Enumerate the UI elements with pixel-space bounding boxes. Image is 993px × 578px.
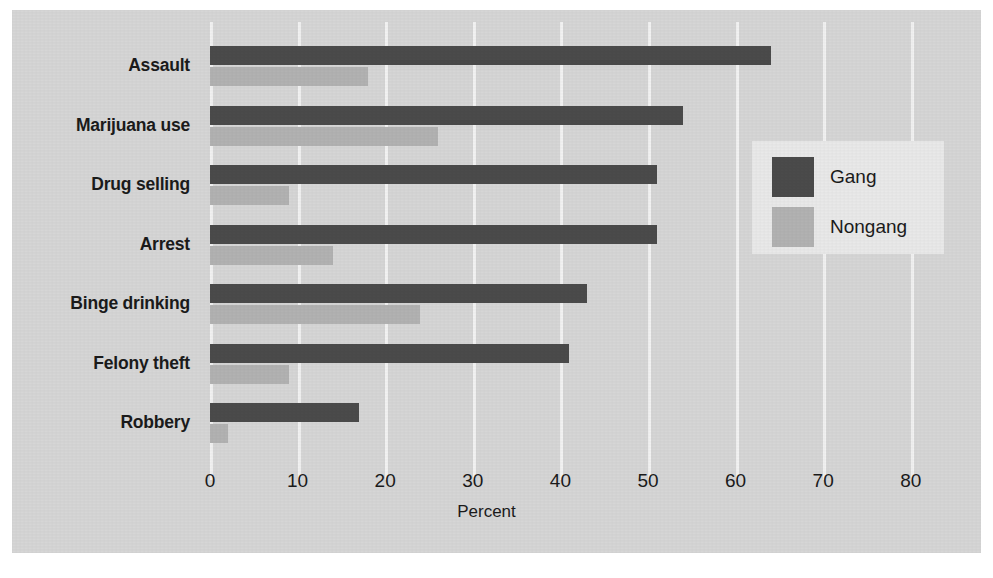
bar-nongang (210, 365, 289, 384)
legend-swatch-nongang (772, 207, 814, 247)
bar-group: Binge drinking (12, 282, 981, 328)
x-tick-label: 10 (268, 470, 328, 492)
bar-nongang (210, 127, 438, 146)
bar-nongang (210, 424, 228, 443)
x-tick-label: 20 (355, 470, 415, 492)
legend-label: Gang (830, 157, 876, 197)
bar-gang (210, 46, 771, 65)
category-label: Binge drinking (12, 280, 190, 326)
bar-gang (210, 403, 359, 422)
category-label: Drug selling (12, 161, 190, 207)
x-axis-title: Percent (12, 502, 981, 522)
category-label: Robbery (12, 399, 190, 445)
legend-label: Nongang (830, 207, 907, 247)
x-tick-label: 60 (706, 470, 766, 492)
chart-legend: GangNongang (752, 141, 944, 254)
legend-swatch-gang (772, 157, 814, 197)
chart-panel: AssaultMarijuana useDrug sellingArrestBi… (12, 10, 981, 553)
bar-gang (210, 284, 587, 303)
bar-group: Felony theft (12, 342, 981, 388)
bar-gang (210, 344, 569, 363)
x-axis-tick-labels: 01020304050607080 (12, 470, 981, 498)
bar-nongang (210, 186, 289, 205)
bar-group: Robbery (12, 401, 981, 447)
bar-gang (210, 106, 683, 125)
bar-nongang (210, 246, 333, 265)
bar-group: Assault (12, 44, 981, 90)
category-label: Marijuana use (12, 102, 190, 148)
category-label: Arrest (12, 221, 190, 267)
x-tick-label: 40 (530, 470, 590, 492)
x-axis-title-text: Percent (457, 502, 516, 521)
x-tick-label: 50 (618, 470, 678, 492)
chart-page: AssaultMarijuana useDrug sellingArrestBi… (0, 0, 993, 578)
category-label: Assault (12, 42, 190, 88)
x-tick-label: 0 (180, 470, 240, 492)
x-tick-label: 70 (793, 470, 853, 492)
x-tick-label: 30 (443, 470, 503, 492)
category-label: Felony theft (12, 340, 190, 386)
bar-nongang (210, 305, 420, 324)
x-tick-label: 80 (881, 470, 941, 492)
bar-nongang (210, 67, 368, 86)
bar-gang (210, 225, 657, 244)
bar-gang (210, 165, 657, 184)
